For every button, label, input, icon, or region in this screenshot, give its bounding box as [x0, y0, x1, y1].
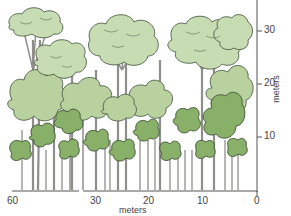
x-tick-label: 10 — [197, 196, 208, 206]
y-tick-label: 0 — [254, 196, 260, 206]
emergent-crowns — [9, 8, 253, 79]
x-axis-title: meters — [119, 205, 147, 215]
y-tick-label: 30 — [264, 25, 275, 35]
y-axis-title: meters — [271, 75, 281, 103]
forest-profile-figure: 30 20 10 0 meters 60 30 20 10 meters — [0, 0, 291, 216]
forest-illustration — [0, 0, 291, 216]
x-tick-label: 30 — [90, 196, 101, 206]
x-tick-label: 60 — [7, 196, 18, 206]
y-tick-label: 10 — [264, 131, 275, 141]
